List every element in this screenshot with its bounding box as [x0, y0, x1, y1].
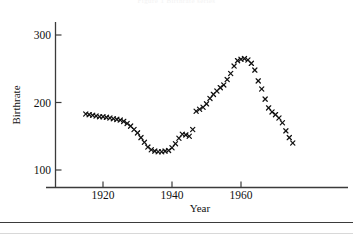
cut-off-title: Figure 1 Birthrate series — [0, 0, 353, 5]
data-point — [291, 141, 295, 145]
y-tick-group: 100200300 — [34, 29, 62, 176]
data-point-group — [84, 57, 295, 154]
footer-divider — [0, 222, 353, 223]
x-axis-title: Year — [190, 202, 211, 214]
data-point — [253, 68, 257, 72]
data-point — [256, 79, 260, 83]
data-point — [225, 77, 229, 81]
x-tick-label: 1920 — [92, 189, 115, 201]
y-tick-label: 100 — [34, 164, 52, 176]
data-point — [263, 97, 267, 101]
figure-panel: Figure 1 Birthrate series 100200300 1920… — [0, 0, 353, 235]
birthrate-scatter-chart: 100200300 192019401960 Birthrate Year — [0, 0, 353, 218]
data-point — [191, 127, 195, 131]
data-point — [284, 129, 288, 133]
data-point — [287, 136, 291, 140]
x-tick-group: 192019401960 — [92, 182, 253, 202]
footer-divider-secondary — [0, 233, 353, 234]
data-point — [232, 64, 236, 68]
data-point — [260, 87, 264, 91]
y-tick-label: 300 — [34, 29, 52, 41]
y-axis-title: Birthrate — [10, 85, 22, 124]
data-point — [280, 121, 284, 125]
data-point — [249, 61, 253, 65]
data-point — [135, 131, 139, 135]
x-tick-label: 1940 — [161, 189, 184, 201]
data-point — [139, 136, 143, 140]
data-point — [173, 142, 177, 146]
data-point — [142, 140, 146, 144]
x-tick-label: 1960 — [230, 189, 253, 201]
y-tick-label: 200 — [34, 97, 52, 109]
data-point — [229, 71, 233, 75]
data-point — [204, 102, 208, 106]
data-point — [277, 116, 281, 120]
